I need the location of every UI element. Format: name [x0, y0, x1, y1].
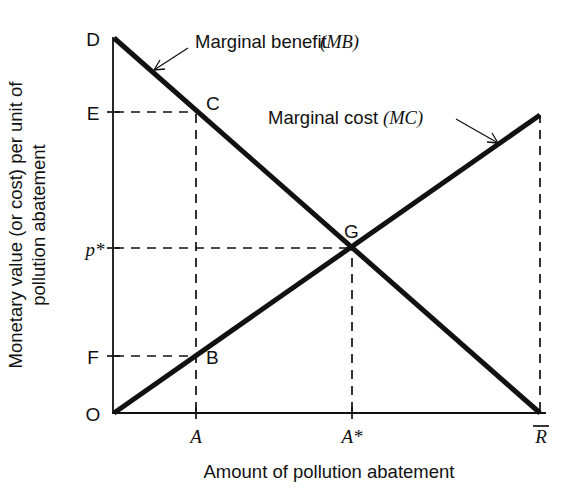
- chart-svg: D E p* F O A A* R C G B Marginal benefit…: [0, 0, 578, 496]
- marginal-benefit-label: Marginal benefit: [195, 31, 327, 52]
- marginal-benefit-abbrev: (MB): [320, 32, 359, 53]
- y-tick-label-E: E: [87, 103, 100, 124]
- marginal-cost-label: Marginal cost: [268, 107, 378, 128]
- point-label-B: B: [206, 347, 219, 368]
- y-axis-title-line1: Monetary value (or cost) per unit of: [5, 81, 26, 369]
- marginal-cost-abbrev: (MC): [383, 108, 423, 129]
- y-tick-label-D: D: [86, 29, 100, 50]
- x-tick-label-Astar: A*: [339, 426, 363, 447]
- y-tick-label-O: O: [86, 404, 101, 425]
- x-axis-title: Amount of pollution abatement: [204, 461, 455, 482]
- x-tick-label-Rbar: R: [534, 426, 547, 447]
- economics-abatement-chart: D E p* F O A A* R C G B Marginal benefit…: [0, 0, 578, 496]
- point-label-G: G: [344, 221, 359, 242]
- y-tick-label-pstar: p*: [84, 239, 106, 260]
- point-label-C: C: [206, 93, 220, 114]
- x-tick-label-A: A: [188, 426, 202, 447]
- y-tick-label-F: F: [87, 347, 99, 368]
- y-axis-title-line2: pollution abatement: [28, 144, 49, 305]
